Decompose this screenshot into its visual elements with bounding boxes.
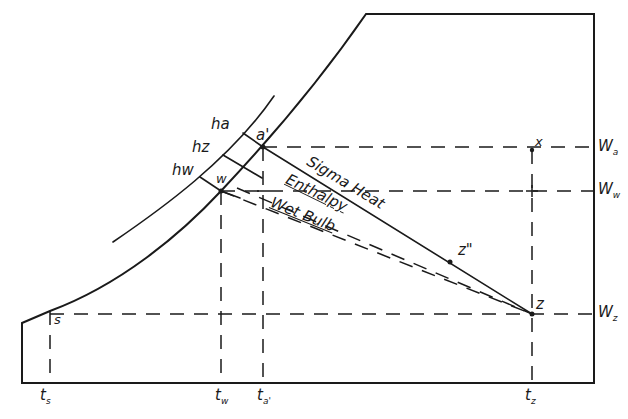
label-w: w [216, 172, 227, 185]
label-ta-prime: ta' [257, 388, 271, 403]
label-a-prime: a' [256, 128, 269, 143]
hz-tick [223, 155, 262, 178]
psychrometric-diagram: ha hz hw a' w x z" z s Sigma Heat Enthal… [0, 0, 628, 419]
label-hz: hz [192, 140, 209, 155]
point-x [530, 148, 534, 152]
point-w [219, 189, 224, 194]
point-z-double-prime [448, 260, 453, 265]
label-z-double-prime: z" [458, 243, 473, 258]
label-x: x [535, 135, 543, 148]
label-tw: tw [215, 388, 228, 403]
label-z: z [536, 297, 544, 312]
label-Wz: Wz [598, 305, 618, 320]
label-Ww: Ww [598, 182, 620, 197]
label-ts: ts [40, 388, 51, 403]
label-hw: hw [172, 163, 194, 178]
label-tz: tz [525, 388, 536, 403]
point-z [530, 312, 535, 317]
point-a-prime [261, 145, 266, 150]
label-ha: ha [211, 117, 230, 132]
label-s: s [54, 313, 61, 326]
label-Wa: Wa [598, 139, 618, 154]
sigma-heat-line [263, 147, 532, 314]
